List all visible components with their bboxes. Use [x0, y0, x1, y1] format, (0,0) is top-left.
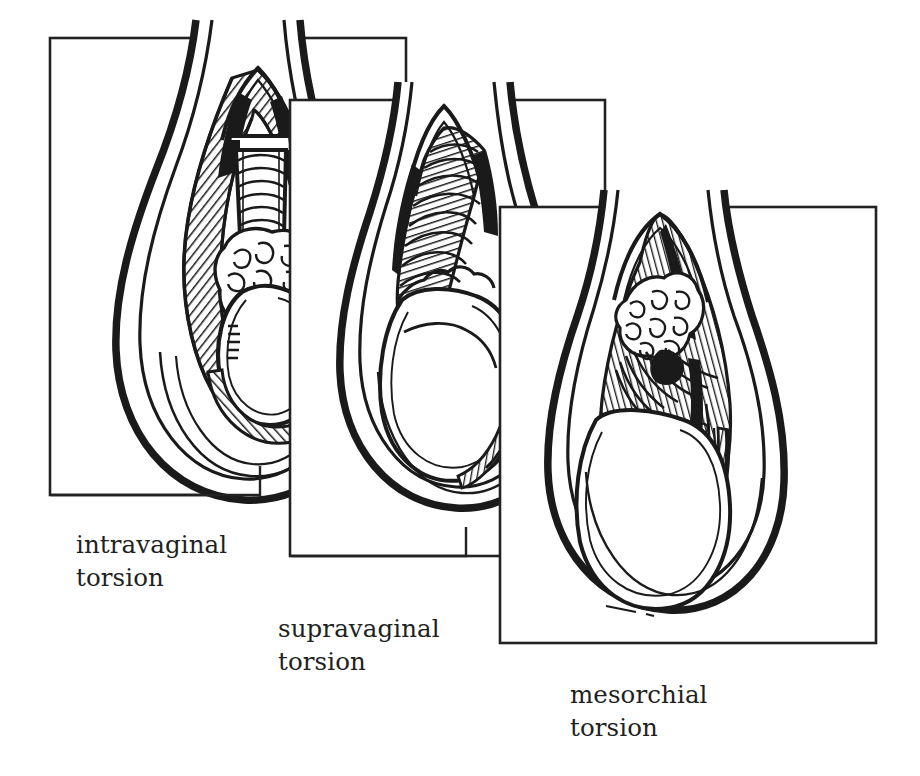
torsion-figure: intravaginal torsion supravaginal torsio…: [0, 0, 920, 776]
testis-3: [577, 410, 731, 609]
panel-mesorchial: [500, 190, 876, 643]
illustration-canvas: [0, 0, 920, 776]
label-supravaginal-torsion: supravaginal torsion: [278, 612, 440, 678]
label-mesorchial-torsion: mesorchial torsion: [570, 678, 708, 744]
label-intravaginal-torsion: intravaginal torsion: [76, 528, 227, 594]
cord-root-shadow: [226, 140, 240, 152]
